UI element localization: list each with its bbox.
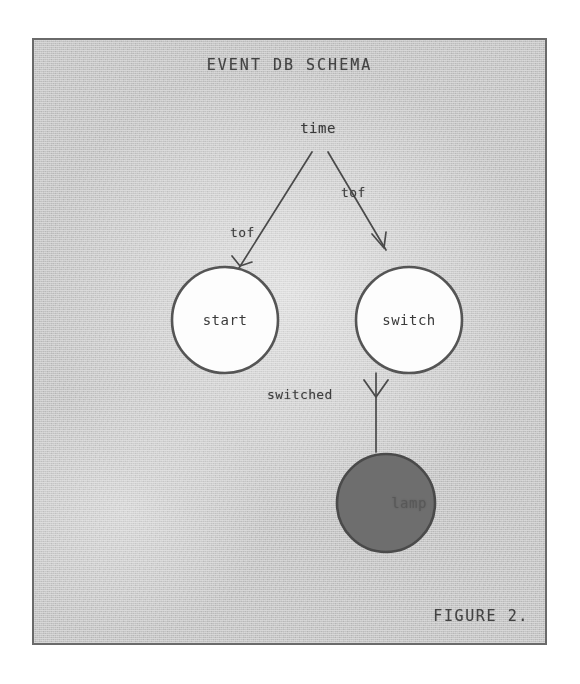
node-lamp[interactable]	[337, 454, 435, 552]
edge-label-switched: switched	[267, 387, 333, 402]
node-label-time: time	[258, 120, 378, 136]
edge-switch-to-lamp	[364, 373, 388, 452]
edge-start-to-time	[232, 152, 312, 268]
edge-label-tof-start: tof	[230, 225, 255, 240]
figure-frame-border: EVENT DB SCHEMA time tof tof switched st…	[32, 38, 547, 645]
node-start[interactable]	[172, 267, 278, 373]
figure-caption: FIGURE 2.	[433, 607, 529, 625]
node-switch[interactable]	[356, 267, 462, 373]
edge-label-tof-switch: tof	[341, 185, 366, 200]
edge-switch-to-time	[328, 152, 386, 250]
scanned-figure-page: EVENT DB SCHEMA time tof tof switched st…	[0, 0, 580, 684]
figure-title: EVENT DB SCHEMA	[34, 56, 545, 74]
